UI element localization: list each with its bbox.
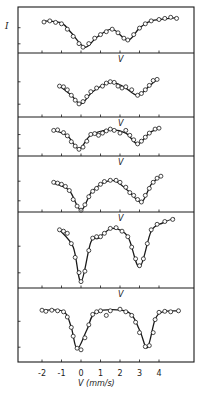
data-point	[79, 348, 83, 352]
data-point	[85, 139, 89, 143]
data-point	[101, 84, 105, 88]
data-point	[112, 80, 116, 84]
data-point	[171, 217, 175, 221]
data-point	[147, 344, 151, 348]
data-point	[62, 310, 66, 314]
data-point	[97, 133, 101, 137]
data-point	[108, 309, 112, 313]
data-point	[81, 100, 85, 104]
data-point	[163, 16, 167, 20]
data-point	[134, 257, 138, 261]
x-tick-label: 0	[78, 369, 83, 378]
data-point	[130, 313, 134, 317]
data-point	[175, 16, 179, 20]
data-point	[118, 131, 122, 135]
data-point	[91, 312, 95, 316]
data-point	[114, 178, 118, 182]
data-point	[149, 228, 153, 232]
data-point	[56, 128, 60, 132]
data-point	[56, 181, 60, 185]
data-point	[93, 132, 97, 136]
x-axis-label: V (mm/s)	[78, 379, 115, 388]
data-point	[147, 186, 151, 190]
data-point	[143, 88, 147, 92]
data-point	[116, 84, 120, 88]
data-point	[71, 34, 75, 38]
data-point	[157, 126, 161, 130]
x-tick-label: 2	[117, 369, 122, 378]
data-point	[120, 229, 124, 233]
data-point	[83, 336, 87, 340]
data-point	[85, 95, 89, 99]
data-point	[132, 138, 136, 142]
data-point	[69, 242, 73, 246]
data-point	[44, 309, 48, 313]
data-point	[139, 92, 143, 96]
data-point	[143, 345, 147, 349]
data-point	[130, 88, 134, 92]
data-point	[132, 33, 136, 37]
data-point	[69, 325, 73, 329]
data-point	[42, 20, 46, 24]
data-point	[139, 200, 143, 204]
data-point	[60, 22, 64, 26]
data-point	[71, 334, 75, 338]
outer-frame	[18, 7, 194, 362]
data-point	[147, 83, 151, 87]
data-point	[157, 18, 161, 22]
data-point	[163, 220, 167, 224]
data-point	[95, 186, 99, 190]
data-point	[177, 309, 181, 313]
panel-label: V	[118, 158, 124, 167]
data-point	[126, 38, 130, 42]
data-point	[120, 86, 124, 90]
data-point	[153, 127, 157, 131]
data-point	[151, 331, 155, 335]
data-point	[104, 81, 108, 85]
data-point	[108, 178, 112, 182]
data-point	[136, 198, 140, 202]
data-point	[83, 203, 87, 207]
data-point	[87, 42, 91, 46]
data-point	[87, 249, 91, 253]
data-point	[99, 235, 103, 239]
data-point	[114, 226, 118, 230]
data-point	[69, 93, 73, 97]
data-point	[136, 93, 140, 97]
data-point	[65, 88, 69, 92]
data-point	[91, 236, 95, 240]
data-point	[58, 228, 62, 232]
data-point	[102, 180, 106, 184]
data-point	[108, 226, 112, 230]
data-point	[77, 102, 81, 106]
fit-curve-6	[42, 310, 179, 349]
x-tick-label: 4	[156, 369, 161, 378]
data-point	[124, 85, 128, 89]
data-point	[157, 310, 161, 314]
data-point	[73, 98, 77, 102]
data-point	[118, 307, 122, 311]
panel-v-labels: VVVVV	[118, 55, 124, 299]
data-point	[139, 139, 143, 143]
x-tick-label: 1	[98, 369, 103, 378]
data-point	[99, 309, 103, 313]
data-point	[65, 134, 69, 138]
data-point	[89, 90, 93, 94]
data-point	[62, 85, 66, 89]
panel-label: V	[118, 119, 124, 128]
data-point	[136, 142, 140, 146]
x-tick-labels: -2-101234	[38, 369, 162, 378]
fit-curve-1	[44, 18, 177, 48]
data-point	[169, 310, 173, 314]
data-point	[138, 26, 142, 30]
data-point	[151, 180, 155, 184]
data-point	[108, 127, 112, 131]
data-point	[147, 131, 151, 135]
data-point	[138, 331, 142, 335]
data-point	[126, 235, 130, 239]
panel-frames	[18, 7, 194, 362]
data-point	[95, 235, 99, 239]
data-point	[132, 193, 136, 197]
data-point	[75, 346, 79, 350]
data-point	[91, 189, 95, 193]
